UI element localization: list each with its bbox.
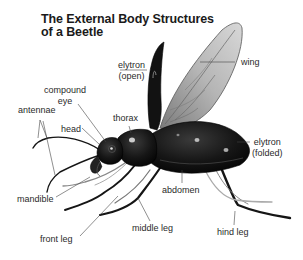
label-compound-eye-line1: compound (44, 85, 86, 96)
label-front-leg: front leg (40, 234, 73, 245)
label-head: head (61, 124, 81, 135)
antennae-shape (33, 137, 100, 192)
label-elytron-folded-line1: elytron (252, 137, 283, 148)
label-elytron-open: elytron (open) (118, 60, 145, 81)
label-elytron-open-line1: elytron (118, 60, 145, 71)
label-wing: wing (241, 57, 260, 68)
elytron-open-shape (148, 42, 164, 130)
label-elytron-open-line2: (open) (118, 71, 145, 82)
label-abdomen: abdomen (162, 185, 200, 196)
wing-shape (160, 23, 242, 129)
label-compound-eye: compound eye (44, 85, 86, 106)
label-thorax: thorax (113, 113, 138, 124)
label-elytron-folded: elytron (folded) (252, 137, 283, 158)
label-mandible: mandible (17, 194, 54, 205)
label-hind-leg: hind leg (217, 227, 249, 238)
label-middle-leg: middle leg (132, 223, 173, 234)
label-elytron-folded-line2: (folded) (252, 148, 283, 159)
beetle-illustration (0, 0, 303, 260)
label-antennae: antennae (18, 105, 56, 116)
body-shape (90, 122, 249, 176)
